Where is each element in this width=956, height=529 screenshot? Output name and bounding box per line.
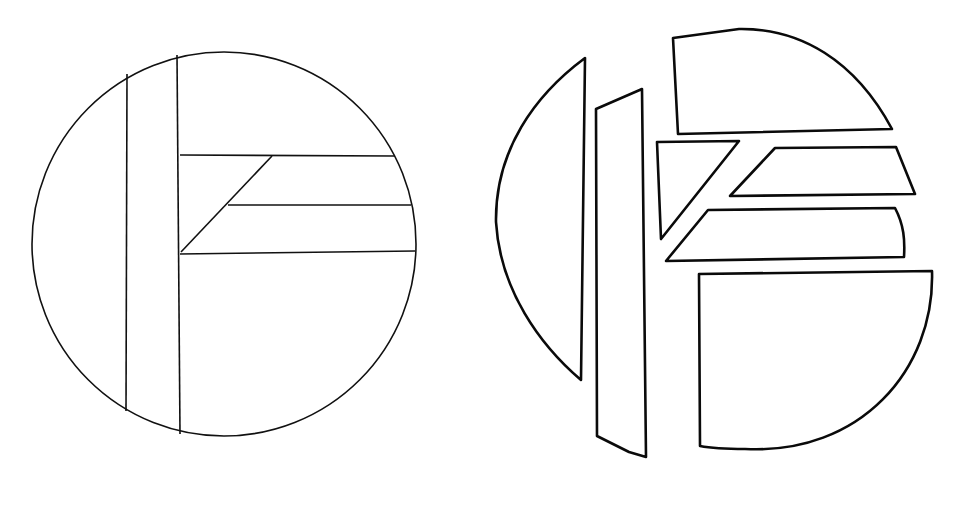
piece-left-segment: [496, 58, 585, 380]
piece-vertical-strip: [596, 89, 646, 457]
piece-top-cap: [673, 29, 892, 134]
piece-bottom-quadrant: [699, 271, 932, 449]
outer-circle: [32, 52, 416, 436]
diagonal-line: [181, 156, 272, 252]
horizontal-line-top: [180, 155, 395, 156]
horizontal-line-bottom: [180, 251, 415, 254]
puzzle-figure: [0, 0, 956, 529]
diagram-canvas: [0, 0, 956, 529]
assembled-circle: [32, 52, 416, 436]
piece-lower-bar: [666, 208, 904, 261]
divider-line-left: [126, 74, 127, 411]
divider-line-right: [177, 55, 180, 434]
piece-upper-bar: [730, 147, 915, 196]
exploded-pieces: [496, 29, 932, 457]
